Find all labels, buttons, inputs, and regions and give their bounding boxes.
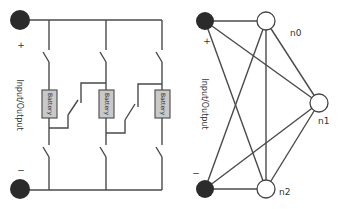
positive-terminal — [10, 10, 30, 30]
node-n2 — [257, 180, 275, 198]
plus-label: + — [17, 40, 25, 50]
minus-label: − — [17, 165, 25, 175]
positive-terminal — [196, 12, 214, 30]
battery-label-1: Battery — [46, 93, 54, 116]
battery-label-2: Battery — [103, 93, 111, 116]
node-n1 — [310, 94, 328, 112]
battery-label-3: Battery — [159, 93, 167, 116]
diagram-canvas: + − Input/Output Battery Battery Battery… — [0, 0, 340, 209]
io-label: Input/Output — [200, 78, 209, 129]
negative-terminal — [196, 180, 214, 198]
connection-graph: + − Input/Output n0 n1 n2 — [192, 12, 329, 198]
node-label-n0: n0 — [290, 28, 302, 38]
minus-label: − — [192, 168, 200, 178]
negative-terminal — [10, 179, 30, 199]
switch-icon — [43, 52, 49, 62]
plus-label: + — [203, 36, 211, 46]
battery-circuit: + − Input/Output Battery Battery Battery — [10, 10, 170, 199]
node-label-n1: n1 — [318, 116, 329, 126]
node-n0 — [257, 12, 275, 30]
node-label-n2: n2 — [279, 187, 290, 197]
io-label: Input/Output — [15, 79, 24, 130]
switch-icon — [43, 147, 49, 157]
